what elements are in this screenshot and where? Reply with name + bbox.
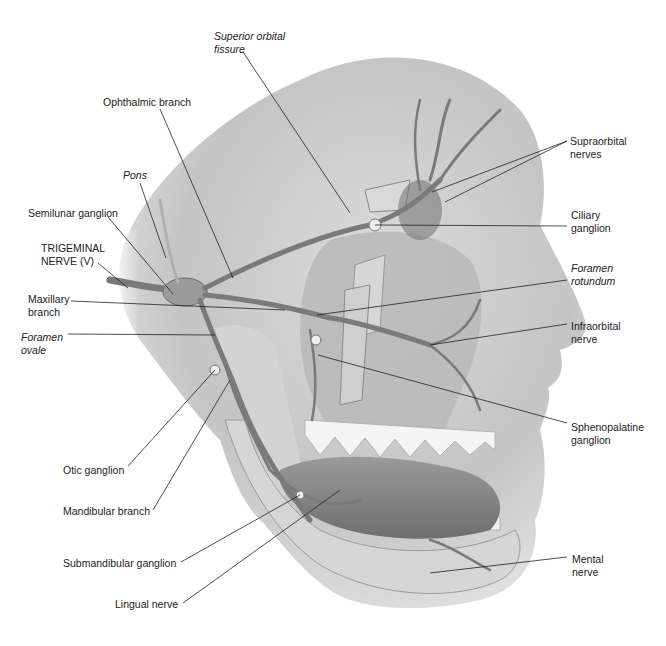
trigeminal-anatomy-illustration [0, 0, 666, 646]
label-mandibular-branch: Mandibular branch [63, 505, 150, 518]
label-superior-orbital-fissure: Superior orbital fissure [214, 30, 285, 56]
label-foramen-ovale: Foramen ovale [21, 331, 63, 357]
label-trigeminal-nerve: TRIGEMINAL NERVE (V) [41, 242, 105, 268]
label-lingual-nerve: Lingual nerve [115, 598, 178, 611]
label-foramen-rotundum: Foramen rotundum [571, 262, 615, 288]
label-sphenopalatine-ganglion: Sphenopalatine ganglion [571, 421, 644, 447]
label-submandibular-ganglion: Submandibular ganglion [63, 557, 176, 570]
label-semilunar-ganglion: Semilunar ganglion [28, 207, 118, 220]
label-infraorbital-nerve: Infraorbital nerve [571, 320, 621, 346]
label-maxillary-branch: Maxillary branch [28, 293, 69, 319]
label-otic-ganglion: Otic ganglion [63, 464, 124, 477]
label-ciliary-ganglion: Ciliary ganglion [571, 209, 611, 235]
label-pons: Pons [123, 169, 147, 182]
label-supraorbital-nerves: Supraorbital nerves [570, 135, 627, 161]
label-mental-nerve: Mental nerve [572, 553, 604, 579]
label-ophthalmic-branch: Ophthalmic branch [103, 96, 191, 109]
